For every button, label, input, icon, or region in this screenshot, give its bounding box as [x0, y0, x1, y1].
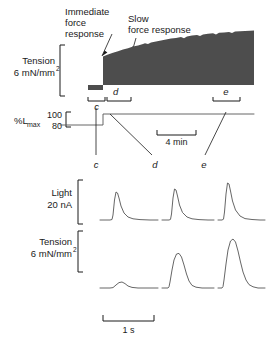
length-tick-high: 100 — [47, 110, 62, 120]
leader-label-d: d — [152, 159, 158, 170]
length-tick-low: 80 — [52, 121, 62, 131]
annotation-immediate-line1: Immediate — [65, 6, 109, 17]
bracket-label-e: e — [223, 86, 228, 97]
tension-top-label-line2: 6 mN/mm — [14, 67, 55, 78]
bracket-label-c: c — [94, 101, 99, 112]
bracket-label-d: d — [113, 86, 119, 97]
scalebar-1s-label: 1 s — [122, 325, 135, 335]
tension-top-label-exponent: 2 — [56, 65, 60, 72]
scalebar-4min-label: 4 min — [165, 137, 187, 147]
leader-label-c: c — [94, 159, 99, 170]
light-label-line1: Light — [51, 187, 72, 198]
annotation-immediate-line3: response — [65, 28, 104, 39]
tension-top-baseline-bar — [88, 85, 103, 90]
length-label-main: %L — [14, 115, 28, 126]
tension-top-label-line1: Tension — [22, 55, 55, 66]
annotation-slow-line2: force response — [128, 24, 191, 35]
annotation-immediate-line2: force — [65, 17, 86, 28]
light-label-line2: 20 nA — [47, 199, 72, 210]
figure-canvas: Immediate force response Slow force resp… — [0, 0, 278, 345]
leader-label-e: e — [201, 159, 206, 170]
tension-bottom-label-line1: Tension — [39, 236, 72, 247]
annotation-slow-line1: Slow — [128, 13, 149, 24]
length-label-sub: max — [27, 121, 41, 128]
tension-bottom-label-exponent: 2 — [73, 246, 77, 253]
tension-bottom-label-line2: 6 mN/mm — [31, 248, 72, 259]
